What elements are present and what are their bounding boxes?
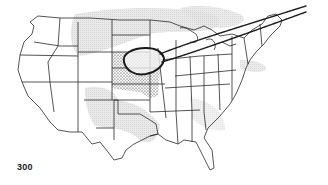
shaded-band [71, 6, 266, 142]
level-label: 300 [17, 162, 33, 172]
us-map [0, 0, 328, 185]
state-outlines [18, 14, 282, 170]
